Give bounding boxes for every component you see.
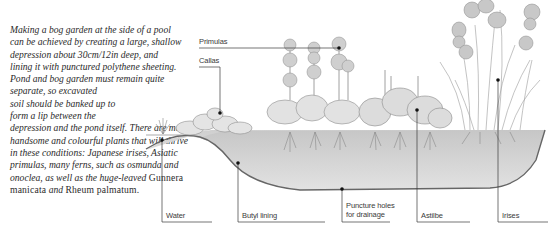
label-puncture-holes: Puncture holes for drainage (346, 201, 395, 219)
primulas-plant (267, 37, 360, 124)
label-puncture-line-1: Puncture holes (346, 201, 395, 210)
label-irises: Irises (502, 211, 519, 220)
label-butyl-lining: Butyl lining (242, 211, 277, 220)
irises-plant (440, 0, 540, 130)
astilbe-plant (359, 70, 452, 128)
label-water: Water (166, 211, 185, 220)
water-plant (156, 118, 170, 134)
bog-garden-illustration (0, 0, 559, 234)
label-callas: Callas (199, 56, 219, 65)
label-puncture-line-2: for drainage (346, 210, 385, 219)
label-primulas: Primulas (199, 37, 227, 46)
label-astilbe: Astilbe (421, 211, 443, 220)
